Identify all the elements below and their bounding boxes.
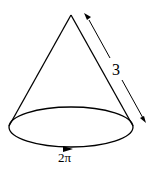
base-ellipse [9, 107, 133, 147]
circumference-label: 2π [58, 151, 71, 164]
cone-diagram [0, 0, 153, 171]
slant-length-label: 3 [112, 62, 120, 78]
